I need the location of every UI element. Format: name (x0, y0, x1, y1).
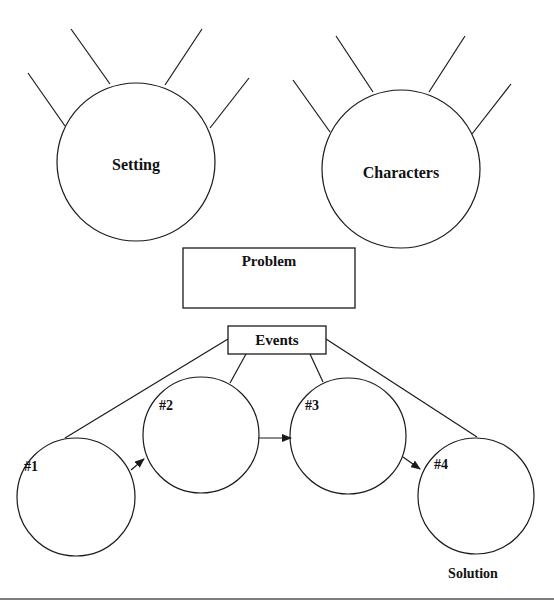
problem-node: Problem (183, 248, 355, 308)
characters-node: Characters (293, 36, 511, 248)
event-4-label: #4 (434, 457, 448, 472)
connector-events-to-4 (326, 339, 477, 437)
connector-events-to-2 (230, 354, 246, 383)
setting-spoke-4 (210, 78, 249, 128)
solution-label: Solution (448, 566, 498, 581)
event-arrows (131, 438, 420, 470)
characters-spoke-1 (293, 80, 330, 132)
setting-label: Setting (112, 156, 160, 174)
event-4: #4 (418, 438, 534, 554)
characters-spoke-3 (429, 36, 465, 92)
setting-spoke-1 (28, 73, 65, 126)
diagram-svg: Setting Characters Problem Events (0, 0, 554, 604)
arrow-3-to-4 (403, 457, 420, 469)
event-3: #3 (290, 378, 406, 494)
event-1: #1 (17, 438, 135, 556)
event-1-label: #1 (24, 459, 38, 474)
events-node: Events (228, 326, 326, 354)
arrow-1-to-2 (131, 459, 144, 470)
characters-spoke-4 (472, 84, 511, 134)
connector-events-to-1 (65, 339, 228, 438)
characters-label: Characters (363, 164, 439, 181)
event-3-circle (290, 378, 406, 494)
event-4-circle (418, 438, 534, 554)
connector-events-to-3 (310, 354, 323, 382)
events-label: Events (255, 332, 299, 348)
setting-node: Setting (28, 29, 249, 241)
problem-label: Problem (242, 253, 297, 269)
event-1-circle (17, 438, 135, 556)
characters-spoke-2 (336, 36, 373, 92)
event-2-label: #2 (159, 398, 173, 413)
event-2-circle (143, 377, 259, 493)
event-3-label: #3 (305, 398, 319, 413)
story-map-diagram: Setting Characters Problem Events (0, 0, 554, 604)
setting-spoke-2 (71, 29, 110, 84)
setting-spoke-3 (165, 29, 202, 85)
event-2: #2 (143, 377, 259, 493)
